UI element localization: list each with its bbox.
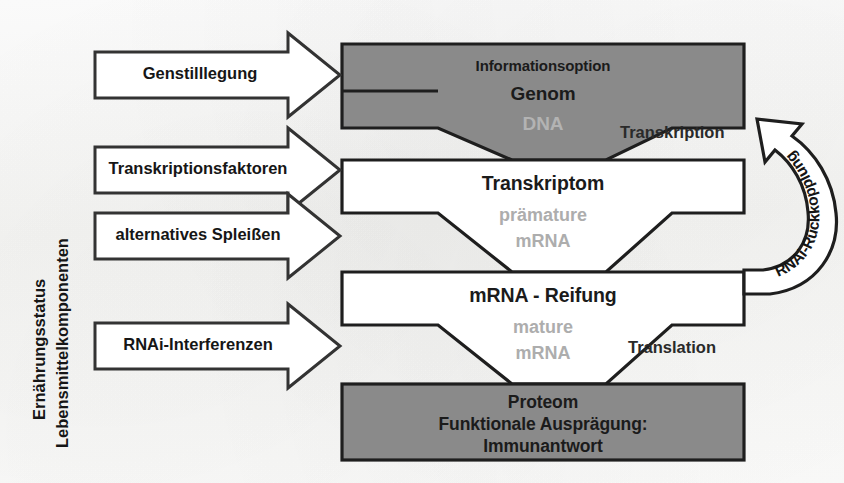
left-axis-line-1: Ernährungsstatus [30,279,49,420]
process-label-transkription: Transkription [620,123,725,142]
proteome-title-line-1: Proteom [508,392,578,413]
input-arrow-label-rnai-interferenzen[interactable]: RNAi-Interferenzen [123,335,272,354]
proteome-title-line-2: Funktionale Ausprägung: [439,414,648,435]
genome-title: Genom [511,83,576,105]
mrna-maturation-title: mRNA - Reifung [469,284,616,307]
mrna-maturation-molecule-line-2: mRNA [515,343,570,364]
transcriptome-molecule-line-2: mRNA [515,231,570,252]
left-axis-line-2: Lebensmittelkomponenten [53,238,72,448]
transcriptome-molecule-line-1: prämature [499,205,587,226]
transcriptome-title: Transkriptom [482,172,604,195]
mrna-maturation-molecule-line-1: mature [513,317,573,338]
left-axis-group: Ernährungsstatus Lebensmittelkomponenten [0,0,72,483]
genome-caption: Informationsoption [476,57,611,74]
input-arrow-label-genstilllegung[interactable]: Genstilllegung [143,64,258,83]
input-arrow-label-transkriptionsfaktoren[interactable]: Transkriptionsfaktoren [109,159,288,178]
genome-molecule-label: DNA [522,113,563,135]
feedback-arrow-label: RNAi-Rückkopplung [772,149,822,280]
input-arrow-label-alternatives-spleissen[interactable]: alternatives Spleißen [115,225,280,244]
process-label-translation: Translation [628,338,716,357]
proteome-title-line-3: Immunantwort [483,436,602,457]
diagram-canvas: RNAi-Rückkopplung Ernährungsstatus Leben… [0,0,844,483]
